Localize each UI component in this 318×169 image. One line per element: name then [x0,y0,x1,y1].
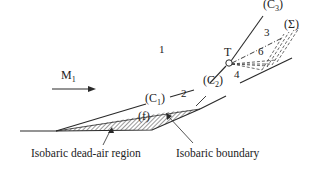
c1-close: ) [161,91,165,105]
mach-symbol: M [61,68,72,82]
point-t-marker [226,60,232,66]
point-t-label: T [224,46,231,58]
c2-text: (C [203,73,215,87]
boundary-caption: Isobaric boundary [176,148,259,160]
c3-text: (C [263,0,275,11]
freestream-arrow [52,86,96,92]
shock-c1-label: (C1) [145,92,165,107]
diagram-canvas [0,0,318,169]
region-4-label: 4 [234,69,240,80]
c3-close: ) [279,0,283,11]
third-ramp [240,58,292,83]
shock-c2-label: (C2) [203,74,223,89]
region-6-label: 6 [258,46,264,57]
sigma-label: (Σ) [284,18,299,30]
dead-air-caption: Isobaric dead-air region [31,148,141,160]
region-2-label: 2 [181,88,187,99]
shock-c3-label: (C3) [263,0,283,13]
boundary-f-label: (f) [138,110,150,122]
freestream-mach-label: M1 [61,69,76,84]
c1-text: (C [145,91,157,105]
region-1-label: 1 [159,44,165,55]
slip-line [232,38,282,63]
region-3-label: 3 [264,27,270,38]
mach-subscript: 1 [72,75,76,84]
shock-c2 [196,96,206,106]
c2-close: ) [219,73,223,87]
